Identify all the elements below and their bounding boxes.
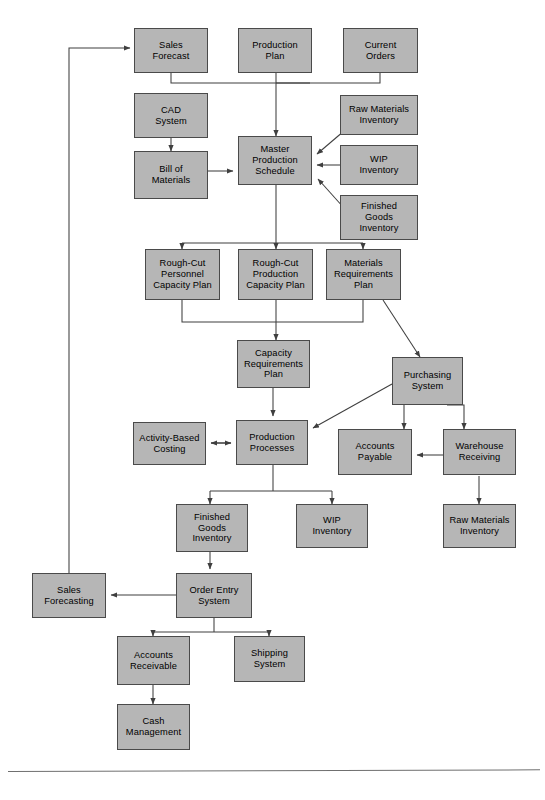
node-raw-materials-inventory-bottom[interactable]: Raw Materials Inventory [443,504,516,548]
node-finished-goods-inventory-top[interactable]: Finished Goods Inventory [340,195,418,240]
node-production-processes[interactable]: Production Processes [236,420,308,465]
node-rough-cut-production-capacity-plan[interactable]: Rough-Cut Production Capacity Plan [238,249,313,300]
node-raw-materials-inventory-top[interactable]: Raw Materials Inventory [340,95,418,135]
node-purchasing-system[interactable]: Purchasing System [392,357,463,405]
node-cash-management[interactable]: Cash Management [117,704,190,750]
node-production-plan[interactable]: Production Plan [238,28,312,73]
node-wip-inventory-bottom[interactable]: WIP Inventory [296,504,368,548]
node-accounts-payable[interactable]: Accounts Payable [338,429,412,475]
node-sales-forecasting[interactable]: Sales Forecasting [32,573,106,618]
edge-sf-to-sales-forecast [69,48,130,573]
edge-purchasing-to-pp [313,384,392,428]
node-cad-system[interactable]: CAD System [134,93,208,138]
node-warehouse-receiving[interactable]: Warehouse Receiving [443,429,516,475]
node-current-orders[interactable]: Current Orders [343,28,418,73]
node-order-entry-system[interactable]: Order Entry System [176,573,252,618]
edge-mrp-to-purchasing [383,300,420,357]
node-finished-goods-inventory-bottom[interactable]: Finished Goods Inventory [176,504,248,552]
node-bill-of-materials[interactable]: Bill of Materials [134,151,208,199]
node-sales-forecast[interactable]: Sales Forecast [134,28,208,73]
node-capacity-requirements-plan[interactable]: Capacity Requirements Plan [237,340,310,388]
edge-sales-forecast-to-mps [171,73,310,83]
node-rough-cut-personnel-capacity-plan[interactable]: Rough-Cut Personnel Capacity Plan [145,249,220,300]
node-materials-requirements-plan[interactable]: Materials Requirements Plan [326,249,401,300]
node-activity-based-costing[interactable]: Activity-Based Costing [133,422,206,465]
flowchart-diagram: Sales Forecast Production Plan Current O… [0,0,545,800]
node-shipping-system[interactable]: Shipping System [234,636,305,682]
edge-purchasing-to-wr [447,405,464,429]
node-master-production-schedule[interactable]: Master Production Schedule [238,136,312,185]
node-accounts-receivable[interactable]: Accounts Receivable [117,636,190,685]
node-wip-inventory-top[interactable]: WIP Inventory [340,145,418,185]
